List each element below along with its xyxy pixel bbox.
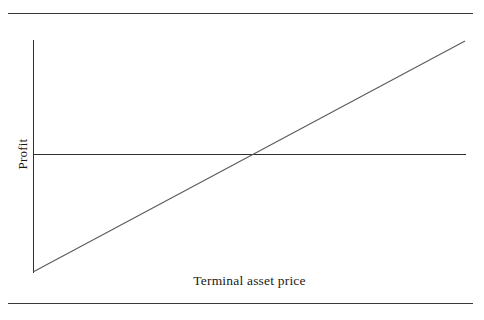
x-axis-label: Terminal asset price: [33, 273, 466, 289]
y-axis-label: Profit: [15, 124, 31, 184]
plot-area: Profit Terminal asset price: [0, 0, 484, 320]
y-axis-line: [33, 40, 34, 273]
payoff-line: [33, 41, 465, 272]
x-axis-line: [33, 154, 466, 155]
bottom-rule: [8, 303, 473, 304]
payoff-line-svg: [0, 0, 484, 320]
figure-panel: Profit Terminal asset price: [0, 0, 484, 320]
